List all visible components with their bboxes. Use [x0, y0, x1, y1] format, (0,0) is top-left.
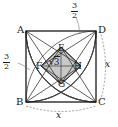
fraction-denominator: 2	[3, 63, 10, 71]
vertex-label-g: G	[58, 80, 65, 89]
fraction-denominator: 2	[71, 12, 78, 20]
leader-line-left	[18, 63, 30, 70]
measurement-top-three-halves: 3 2	[71, 2, 78, 21]
measurement-right-x: x	[105, 60, 110, 69]
measurement-rhombus-side-sqrt3: √3	[49, 58, 60, 67]
vertex-label-h: H	[74, 62, 82, 71]
radicand-value: 3	[54, 56, 61, 67]
fraction-numerator: 3	[71, 2, 78, 10]
vertex-label-f: F	[36, 62, 42, 71]
geometry-figure: A D B C E F H G 3 2 3 2 √3 x x	[0, 0, 118, 127]
vertex-label-e: E	[58, 44, 65, 53]
measurement-bottom-x: x	[56, 111, 61, 120]
vertex-label-d: D	[98, 25, 106, 35]
vertex-label-b: B	[16, 97, 23, 107]
vertex-label-c: C	[98, 97, 106, 107]
fraction-numerator: 3	[3, 53, 10, 61]
vertex-label-a: A	[17, 25, 24, 35]
measurement-left-three-halves: 3 2	[3, 53, 10, 72]
